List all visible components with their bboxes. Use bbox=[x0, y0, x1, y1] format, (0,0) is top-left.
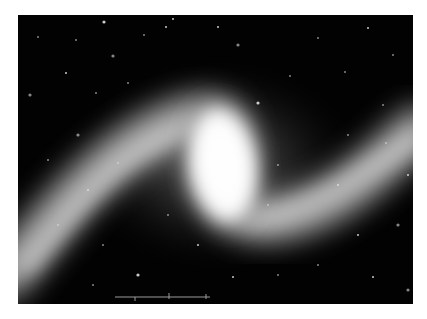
star bbox=[127, 82, 129, 84]
image-caption-area bbox=[0, 306, 427, 319]
star bbox=[65, 72, 67, 74]
star bbox=[236, 43, 239, 46]
star bbox=[406, 288, 409, 291]
star bbox=[143, 34, 145, 36]
star bbox=[87, 189, 89, 191]
star bbox=[317, 37, 319, 39]
star bbox=[372, 276, 374, 278]
star bbox=[197, 244, 199, 246]
star bbox=[111, 54, 114, 57]
star bbox=[28, 93, 31, 96]
star bbox=[95, 92, 97, 94]
star bbox=[165, 26, 167, 28]
star bbox=[256, 101, 259, 104]
star bbox=[337, 184, 339, 186]
star bbox=[277, 164, 279, 166]
star bbox=[117, 162, 119, 164]
star bbox=[37, 36, 39, 38]
star bbox=[367, 27, 369, 29]
star bbox=[76, 133, 79, 136]
star bbox=[347, 134, 349, 136]
star bbox=[289, 75, 291, 77]
star bbox=[382, 104, 384, 106]
star bbox=[167, 214, 169, 216]
star bbox=[102, 244, 104, 246]
star bbox=[407, 174, 409, 176]
star bbox=[344, 71, 346, 73]
star bbox=[75, 39, 77, 41]
star bbox=[277, 274, 279, 276]
star bbox=[385, 142, 387, 144]
star bbox=[217, 26, 219, 28]
star bbox=[357, 234, 359, 236]
star bbox=[267, 204, 269, 206]
scale-bar bbox=[115, 293, 210, 301]
galaxy-image bbox=[18, 15, 413, 304]
galaxy-illustration bbox=[18, 15, 413, 304]
star bbox=[92, 284, 94, 286]
star bbox=[102, 20, 105, 23]
star bbox=[136, 273, 139, 276]
star bbox=[57, 224, 59, 226]
star bbox=[396, 223, 399, 226]
star bbox=[392, 54, 394, 56]
star bbox=[232, 276, 234, 278]
star bbox=[172, 18, 174, 20]
star bbox=[317, 264, 319, 266]
star bbox=[47, 159, 49, 161]
